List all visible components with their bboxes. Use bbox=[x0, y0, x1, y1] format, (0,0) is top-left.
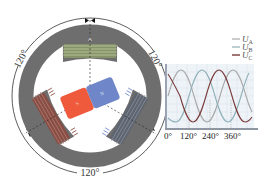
angle-label-bottom: 120° bbox=[81, 167, 100, 178]
x-tick-360: 360° bbox=[224, 131, 242, 141]
chart-legend: UA UB UC bbox=[232, 34, 254, 61]
x-tick-120: 120° bbox=[180, 131, 198, 141]
phase-voltage-chart: 0° 120° 240° 360° UA UB UC bbox=[164, 34, 258, 141]
chart-y-axis bbox=[165, 64, 167, 129]
figure: 120° 120° 120° A bbox=[0, 0, 269, 180]
coil-a-label: A bbox=[88, 36, 93, 42]
chart-x-axis bbox=[165, 128, 258, 130]
generator-diagram: 120° 120° 120° A bbox=[8, 18, 168, 178]
x-tick-240: 240° bbox=[202, 131, 220, 141]
rotor-magnet: N S bbox=[60, 76, 121, 119]
x-tick-0: 0° bbox=[164, 131, 173, 141]
